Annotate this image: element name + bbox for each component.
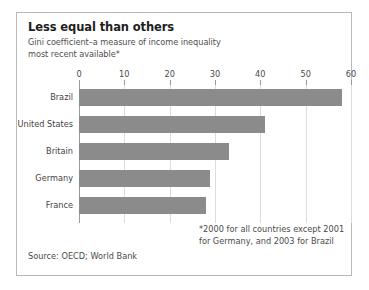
x-tick-label-40: 40	[255, 69, 265, 79]
chart-header: Less equal than others Gini coefficient–…	[28, 20, 338, 60]
category-label-britain: Britain	[46, 143, 73, 160]
x-tick-label-60: 60	[346, 69, 356, 79]
x-tick-label-50: 50	[300, 69, 310, 79]
category-label-germany: Germany	[35, 170, 73, 187]
plot-wrapper: 0102030405060 BrazilUnited StatesBritain…	[17, 69, 351, 225]
bar-britain	[79, 143, 229, 160]
category-label-france: France	[46, 197, 73, 214]
x-tick-label-30: 30	[210, 69, 220, 79]
chart-subtitle: Gini coefficient–a measure of income ine…	[28, 37, 338, 60]
x-axis-tick-labels: 0102030405060	[17, 69, 351, 83]
category-label-brazil: Brazil	[50, 89, 73, 106]
bar-brazil	[79, 89, 342, 106]
chart-source: Source: OECD; World Bank	[28, 251, 137, 261]
bar-germany	[79, 170, 210, 187]
chart-footnote: *2000 for all countries except 2001 for …	[199, 223, 347, 247]
tickmark-60	[351, 80, 352, 85]
x-tick-label-10: 10	[119, 69, 129, 79]
category-label-united-states: United States	[18, 116, 73, 133]
bar-row: Germany	[79, 170, 351, 187]
chart-footnote-line-2: for Germany, and 2003 for Brazil	[199, 236, 334, 246]
x-tick-label-20: 20	[164, 69, 174, 79]
chart-title: Less equal than others	[28, 20, 338, 34]
chart-subtitle-line-2: most recent available*	[28, 49, 120, 59]
bar-france	[79, 197, 206, 214]
bar-rows: BrazilUnited StatesBritainGermanyFrance	[79, 85, 351, 223]
x-tick-label-0: 0	[76, 69, 81, 79]
bar-united-states	[79, 116, 265, 133]
gridline-60	[351, 85, 352, 223]
bar-row: Britain	[79, 143, 351, 160]
bar-row: United States	[79, 116, 351, 133]
chart-figure: Less equal than others Gini coefficient–…	[16, 12, 352, 276]
chart-subtitle-line-1: Gini coefficient–a measure of income ine…	[28, 37, 221, 47]
bar-row: Brazil	[79, 89, 351, 106]
bar-row: France	[79, 197, 351, 214]
chart-footnote-line-1: *2000 for all countries except 2001	[199, 224, 344, 234]
plot-area: BrazilUnited StatesBritainGermanyFrance	[79, 85, 351, 223]
